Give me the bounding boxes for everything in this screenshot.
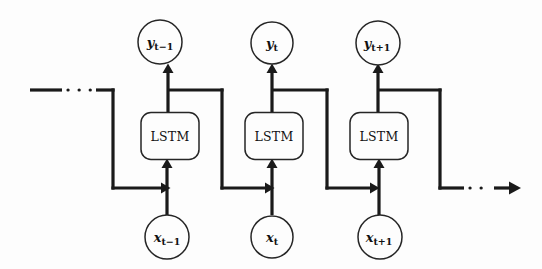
output-node-2-subscript: t bbox=[274, 41, 279, 52]
input-node-3-base: x bbox=[365, 230, 374, 245]
lstm-cell-2[interactable]: LSTM bbox=[245, 113, 303, 160]
input-node-1-subscript: t−1 bbox=[161, 235, 180, 246]
output-node-2[interactable]: yt bbox=[251, 22, 293, 64]
input-node-3-subscript: t+1 bbox=[373, 235, 392, 246]
input-nodes-group: xt−1 xt xt+1 bbox=[145, 215, 402, 259]
output-nodes-group: yt−1 yt yt+1 bbox=[138, 20, 400, 65]
right-continuation-arrowhead bbox=[509, 182, 521, 195]
lstm-cell-2-label: LSTM bbox=[255, 129, 294, 144]
diagram-canvas: LSTM LSTM LSTM yt−1 yt yt+1 bbox=[0, 0, 542, 269]
lstm-cell-3[interactable]: LSTM bbox=[350, 113, 408, 160]
output-arrowhead-1 bbox=[163, 64, 174, 74]
input-node-1-base: x bbox=[153, 230, 162, 245]
lstm-cell-1[interactable]: LSTM bbox=[141, 113, 199, 160]
input-node-2-base: x bbox=[265, 230, 274, 245]
output-node-3-subscript: t+1 bbox=[371, 41, 390, 52]
output-arrowhead-2 bbox=[267, 64, 278, 74]
lstm-unrolled-diagram: LSTM LSTM LSTM yt−1 yt yt+1 bbox=[0, 0, 542, 269]
input-node-2[interactable]: xt bbox=[251, 216, 293, 258]
input-node-1[interactable]: xt−1 bbox=[145, 215, 189, 259]
output-node-1[interactable]: yt−1 bbox=[138, 20, 182, 64]
output-node-3[interactable]: yt+1 bbox=[356, 21, 400, 65]
lstm-cell-1-label: LSTM bbox=[151, 129, 190, 144]
lstm-cell-3-label: LSTM bbox=[360, 129, 399, 144]
lstm-cells-group: LSTM LSTM LSTM bbox=[141, 113, 408, 160]
output-node-1-subscript: t−1 bbox=[154, 40, 173, 51]
output-wires-group bbox=[163, 64, 384, 114]
input-node-3[interactable]: xt+1 bbox=[358, 215, 402, 259]
input-node-2-subscript: t bbox=[274, 235, 279, 246]
